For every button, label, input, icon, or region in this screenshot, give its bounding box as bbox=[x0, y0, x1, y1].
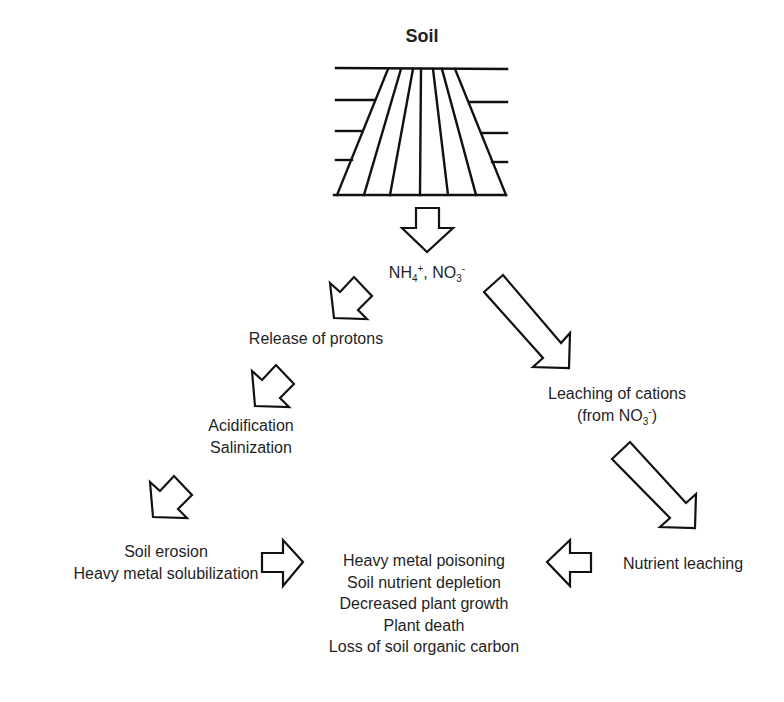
ions-text: NH bbox=[389, 264, 412, 281]
arrow-right-icon bbox=[262, 540, 303, 586]
outcome-item: Decreased plant growth bbox=[308, 593, 540, 615]
outcome-item: Soil nutrient depletion bbox=[308, 572, 540, 594]
node-nutrient-leaching: Nutrient leaching bbox=[608, 553, 758, 574]
outcome-item: Plant death bbox=[308, 615, 540, 637]
node-soil-erosion: Soil erosion Heavy metal solubilization bbox=[66, 541, 266, 584]
outcome-item: Heavy metal poisoning bbox=[308, 550, 540, 572]
arrow-down-left-icon bbox=[252, 365, 294, 407]
ions-sub: 3 bbox=[456, 273, 462, 284]
arrow-down-icon bbox=[402, 208, 453, 252]
node-acidification: Acidification Salinization bbox=[176, 415, 326, 458]
node-outcomes: Heavy metal poisoning Soil nutrient depl… bbox=[308, 550, 540, 658]
node-line: Heavy metal solubilization bbox=[66, 563, 266, 585]
node-line: Salinization bbox=[176, 437, 326, 459]
node-release-of-protons: Release of protons bbox=[226, 328, 406, 349]
arrow-down-left-icon bbox=[330, 277, 372, 319]
node-text: (from NO bbox=[577, 407, 643, 424]
diagram-canvas: Soil NH4+, NO3- Release of protons Acidi… bbox=[0, 0, 784, 702]
arrow-down-right-icon bbox=[484, 275, 570, 368]
ions-sup: - bbox=[462, 263, 465, 274]
node-line: (from NO3-) bbox=[527, 405, 707, 427]
node-line: Acidification bbox=[176, 415, 326, 437]
node-sub: 3 bbox=[643, 416, 649, 427]
ions-text: , NO bbox=[423, 264, 456, 281]
node-leaching-of-cations: Leaching of cations (from NO3-) bbox=[527, 383, 707, 426]
arrow-left-icon bbox=[547, 540, 591, 586]
outcome-item: Loss of soil organic carbon bbox=[308, 636, 540, 658]
soil-illustration bbox=[334, 68, 507, 195]
diagram-title: Soil bbox=[382, 26, 462, 47]
node-line: Soil erosion bbox=[66, 541, 266, 563]
node-ions: NH4+, NO3- bbox=[372, 262, 482, 283]
ions-sub: 4 bbox=[412, 273, 418, 284]
arrow-down-left-icon bbox=[150, 476, 192, 518]
node-line: Leaching of cations bbox=[527, 383, 707, 405]
arrow-down-right-icon bbox=[612, 442, 696, 528]
node-text: ) bbox=[652, 407, 657, 424]
